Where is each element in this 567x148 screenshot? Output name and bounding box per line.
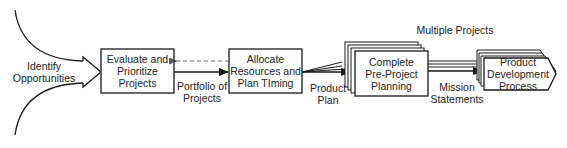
identify-opportunities-label: Identify Opportunities	[4, 60, 84, 84]
mission-statements-label: Mission Statements	[427, 81, 487, 105]
pdp-node: Product Development Process	[484, 58, 552, 90]
product-plan-label: Product Plan	[308, 82, 348, 106]
multiple-projects-label: Multiple Projects	[405, 24, 505, 36]
portfolio-label: Portfolio of Projects	[172, 80, 232, 104]
evaluate-node: Evaluate and Prioritize Projects	[101, 49, 174, 93]
allocate-node: Allocate Resources and Plan TIming	[229, 49, 302, 93]
preproject-node: Complete Pre-Project Planning	[355, 51, 428, 96]
